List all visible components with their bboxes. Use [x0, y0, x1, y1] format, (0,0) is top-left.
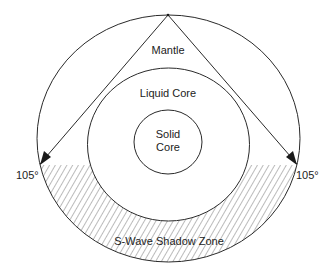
earth-diagram: Mantle Liquid Core Solid Core S-Wave Sha…: [0, 0, 333, 279]
angle-right-label: 105°: [296, 169, 319, 181]
shadow-zone-label: S-Wave Shadow Zone: [114, 235, 224, 247]
epicenter-point: [167, 14, 170, 17]
mantle-label: Mantle: [151, 44, 184, 56]
liquid-core-label: Liquid Core: [140, 87, 196, 99]
solid-core-label-line2: Core: [156, 141, 180, 153]
angle-left-label: 105°: [16, 169, 39, 181]
solid-core-label-line1: Solid: [156, 128, 180, 140]
